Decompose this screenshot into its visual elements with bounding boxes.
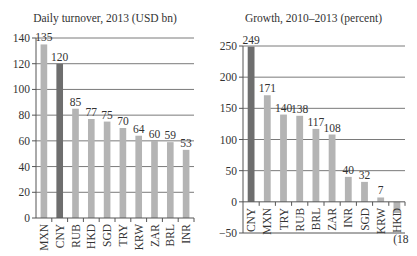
bar-hkd [88,119,95,218]
bar-chart-plot: −50050100150200250249CNY171MXN140TRY138R… [210,0,417,256]
y-tick-label: 0 [24,212,30,224]
y-tick-label: 60 [19,135,31,147]
value-label: 171 [259,82,277,94]
value-label: 64 [133,123,145,135]
y-tick-label: 120 [13,58,31,70]
value-label: 59 [165,129,177,141]
bar-try [120,128,127,218]
x-tick-label: KRW [375,208,387,234]
x-tick-label: MXN [38,223,50,251]
y-tick-label: 200 [220,71,238,83]
bar-try [280,115,287,202]
x-tick-label: ZAR [149,224,161,247]
y-tick-label: 80 [19,109,31,121]
x-tick-label: MXN [261,207,273,235]
y-tick-label: 0 [231,196,237,208]
value-label: 75 [101,109,113,121]
x-tick-label: RUB [70,224,82,248]
value-label: 53 [180,137,192,149]
value-label: (18 [393,233,409,246]
value-label: 40 [343,164,355,176]
value-label: 70 [117,115,129,127]
value-label: 32 [359,169,371,181]
bar-rub [72,109,79,218]
y-tick-label: 50 [226,165,238,177]
x-tick-label: BRL [164,224,176,246]
value-label: 7 [378,184,384,196]
value-label: 120 [51,51,69,63]
x-tick-label: SGD [101,224,113,247]
value-label: 77 [86,106,98,118]
y-tick-label: 140 [13,32,31,44]
value-label: 140 [275,102,293,114]
bar-krw [377,197,384,201]
x-tick-label: TRY [278,207,290,230]
bar-mxn [264,95,271,202]
bar-sgd [104,122,111,218]
x-tick-label: SGD [359,208,371,231]
bar-krw [135,136,142,218]
y-tick-label: 100 [13,83,31,95]
x-tick-label: KRW [133,224,145,250]
x-tick-label: TRY [117,223,129,246]
bar-chart-plot: 020406080100120140135MXN120CNY85RUB77HKD… [0,0,210,256]
y-tick-label: 40 [19,161,31,173]
value-label: 60 [149,128,161,140]
x-tick-label: ZAR [326,208,338,231]
y-tick-label: 20 [19,186,31,198]
value-label: 117 [307,116,324,128]
bar-brl [167,142,174,218]
value-label: 108 [323,122,341,134]
y-tick-label: 250 [220,40,238,52]
value-label: 249 [242,34,260,46]
y-tick-label: 150 [220,102,238,114]
growth-chart: Growth, 2010–2013 (percent) −50050100150… [210,0,417,256]
x-tick-label: BRL [310,208,322,230]
x-tick-label: CNY [54,223,66,248]
bar-sgd [361,182,368,202]
bar-cny [56,64,63,218]
x-tick-label: INR [180,224,192,244]
x-tick-label: RUB [294,208,306,232]
bar-rub [296,116,303,202]
bar-brl [312,129,319,202]
x-tick-label: INR [342,208,354,228]
value-label: 85 [70,96,82,108]
x-tick-label: HKD [391,208,403,233]
bar-inr [345,177,352,202]
value-label: 135 [35,31,53,43]
y-tick-label: −50 [219,227,237,239]
bar-cny [248,47,255,202]
daily-turnover-chart: Daily turnover, 2013 (USD bn) 0204060801… [0,0,210,256]
bar-zar [151,141,158,218]
x-tick-label: HKD [85,224,97,249]
value-label: 138 [291,103,309,115]
x-tick-label: CNY [245,207,257,232]
y-tick-label: 100 [220,134,238,146]
bar-mxn [41,44,48,218]
bar-zar [329,135,336,202]
bar-inr [183,150,190,218]
